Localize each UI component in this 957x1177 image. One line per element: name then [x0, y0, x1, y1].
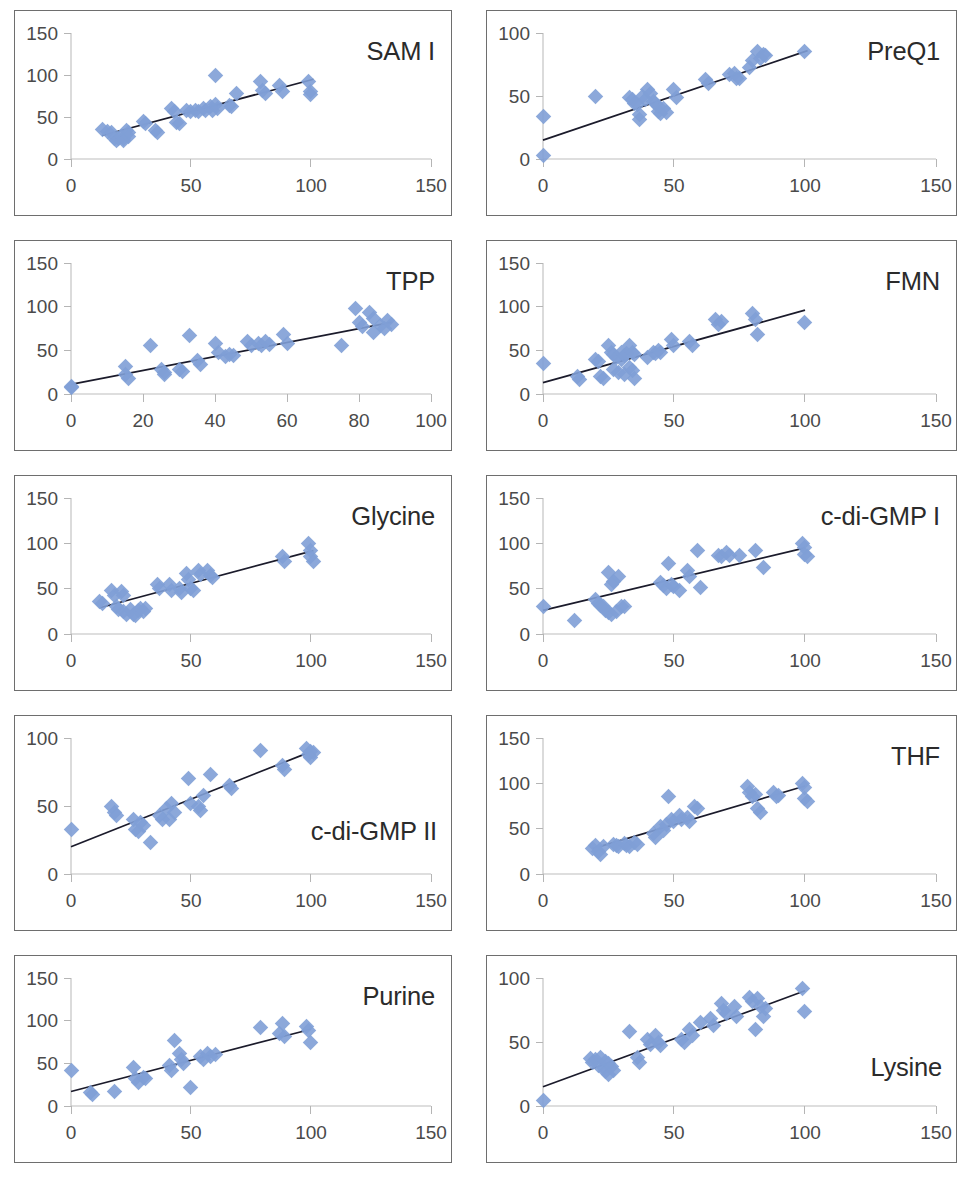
x-tick-mark — [215, 394, 216, 402]
x-tick-mark — [543, 394, 544, 402]
y-tick-mark — [64, 543, 71, 544]
x-tick-label: 0 — [538, 650, 549, 672]
y-tick-mark — [536, 738, 543, 739]
y-tick-label: 0 — [47, 864, 58, 886]
y-tick-mark — [64, 1020, 71, 1021]
y-tick-mark — [64, 33, 71, 34]
x-tick-mark — [71, 159, 72, 167]
x-tick-label: 100 — [789, 410, 821, 432]
plot-area: 050100150050100150 — [71, 978, 431, 1106]
y-tick-label: 50 — [37, 340, 58, 362]
y-tick-label: 150 — [26, 488, 58, 510]
x-tick-label: 100 — [295, 650, 327, 672]
y-tick-label: 150 — [498, 253, 530, 275]
chart-cell: FMN050100150050100150 — [472, 230, 953, 465]
chart-cell: Lysine050100050100150 — [472, 945, 953, 1177]
x-tick-label: 100 — [295, 890, 327, 912]
y-tick-mark — [64, 263, 71, 264]
y-tick-mark — [64, 75, 71, 76]
plot-area: 050100050100150 — [543, 33, 936, 159]
x-tick-mark — [310, 159, 311, 167]
chart-panel: c-di-GMP II050100050100150 — [14, 715, 452, 931]
x-tick-mark — [936, 634, 937, 642]
x-tick-label: 50 — [663, 890, 684, 912]
y-tick-mark — [536, 1042, 543, 1043]
y-tick-label: 0 — [519, 149, 530, 171]
chart-panel: SAM I050100150050100150 — [14, 10, 452, 216]
x-tick-label: 0 — [66, 1122, 77, 1144]
x-tick-mark — [804, 874, 805, 882]
y-tick-mark — [536, 783, 543, 784]
x-tick-label: 50 — [180, 1122, 201, 1144]
y-tick-label: 0 — [519, 384, 530, 406]
data-overlay — [71, 978, 431, 1106]
y-tick-label: 100 — [26, 533, 58, 555]
x-tick-label: 50 — [663, 410, 684, 432]
y-tick-mark — [64, 498, 71, 499]
plot-area: 050100150050100150 — [543, 738, 936, 874]
x-tick-mark — [543, 874, 544, 882]
x-tick-mark — [431, 1106, 432, 1114]
y-tick-label: 0 — [519, 624, 530, 646]
x-tick-mark — [287, 394, 288, 402]
x-tick-mark — [190, 874, 191, 882]
x-tick-mark — [673, 634, 674, 642]
chart-panel: TPP050100150020406080100 — [14, 240, 452, 451]
x-tick-label: 0 — [538, 1122, 549, 1144]
x-tick-label: 150 — [415, 650, 447, 672]
x-tick-mark — [71, 1106, 72, 1114]
plot-area: 050100150050100150 — [71, 498, 431, 634]
y-tick-label: 100 — [26, 728, 58, 750]
chart-panel: Purine050100150050100150 — [14, 955, 452, 1163]
x-tick-label: 50 — [180, 650, 201, 672]
chart-cell: TPP050100150020406080100 — [0, 230, 472, 465]
x-tick-mark — [543, 634, 544, 642]
y-tick-label: 150 — [26, 968, 58, 990]
y-tick-label: 50 — [509, 578, 530, 600]
x-tick-label: 0 — [538, 175, 549, 197]
chart-cell: SAM I050100150050100150 — [0, 0, 472, 230]
chart-cell: THF050100150050100150 — [472, 705, 953, 945]
x-tick-label: 100 — [789, 650, 821, 672]
x-tick-mark — [190, 634, 191, 642]
x-tick-label: 50 — [663, 1122, 684, 1144]
x-tick-label: 150 — [415, 1122, 447, 1144]
x-tick-mark — [431, 394, 432, 402]
y-tick-mark — [64, 738, 71, 739]
y-tick-label: 50 — [509, 1032, 530, 1054]
chart-cell: c-di-GMP I050100150050100150 — [472, 465, 953, 705]
plot-area: 050100150050100150 — [543, 263, 936, 394]
y-tick-label: 0 — [47, 384, 58, 406]
x-tick-label: 0 — [66, 650, 77, 672]
x-tick-label: 50 — [663, 650, 684, 672]
y-tick-label: 0 — [47, 1096, 58, 1118]
x-tick-label: 150 — [920, 890, 952, 912]
plot-area: 050100150050100150 — [543, 498, 936, 634]
x-tick-mark — [431, 159, 432, 167]
y-tick-label: 100 — [26, 65, 58, 87]
y-tick-mark — [536, 978, 543, 979]
x-tick-mark — [673, 1106, 674, 1114]
y-tick-mark — [64, 806, 71, 807]
chart-panel: c-di-GMP I050100150050100150 — [486, 475, 957, 691]
x-tick-mark — [804, 159, 805, 167]
y-tick-label: 0 — [47, 149, 58, 171]
y-tick-label: 100 — [26, 296, 58, 318]
x-tick-label: 80 — [348, 410, 369, 432]
x-tick-mark — [673, 874, 674, 882]
y-tick-label: 0 — [519, 1096, 530, 1118]
y-tick-label: 150 — [26, 23, 58, 45]
x-tick-label: 150 — [920, 175, 952, 197]
x-tick-label: 0 — [538, 890, 549, 912]
y-tick-mark — [64, 306, 71, 307]
x-tick-mark — [673, 394, 674, 402]
x-tick-label: 0 — [66, 175, 77, 197]
x-tick-mark — [359, 394, 360, 402]
y-tick-mark — [536, 498, 543, 499]
x-tick-label: 150 — [920, 1122, 952, 1144]
x-tick-label: 100 — [415, 410, 447, 432]
chart-cell: Glycine050100150050100150 — [0, 465, 472, 705]
x-tick-label: 100 — [789, 1122, 821, 1144]
x-tick-mark — [71, 634, 72, 642]
